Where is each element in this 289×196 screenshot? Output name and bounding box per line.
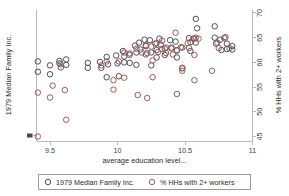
x-tick-label: 11: [249, 146, 256, 155]
right-y-tick-label: 50: [255, 108, 264, 116]
right-y-tick-label: 55: [255, 83, 264, 91]
legend-label-series-1: 1979 Median Family Inc.: [56, 178, 134, 187]
legend-label-series-2: % HHs with 2+ workers: [160, 178, 235, 187]
right-y-tick-label: 60: [255, 58, 264, 66]
x-tick-label: 10: [114, 146, 122, 155]
right-y-tick-label: 45: [255, 133, 264, 141]
chart-legend: 1979 Median Family Inc. % HHs with 2+ wo…: [39, 175, 251, 190]
x-tick-label: 9.5: [45, 146, 55, 155]
x-tick-label: 10.5: [178, 146, 192, 155]
chart-canvas: 9.51010.511 455055606570 average educati…: [0, 0, 289, 196]
right-y-tick-label: 65: [255, 34, 264, 42]
left-axis-tick-smudge: [27, 134, 33, 138]
left-y-axis-title: 1979 Median Family Inc.: [4, 35, 13, 116]
right-y-tick-label: 70: [255, 9, 264, 17]
scatter-chart-figure: 9.51010.511 455055606570 average educati…: [0, 0, 289, 196]
right-y-axis-title: % HHs with 2+ workers: [274, 36, 283, 113]
x-axis-title: average education level...: [102, 156, 186, 165]
